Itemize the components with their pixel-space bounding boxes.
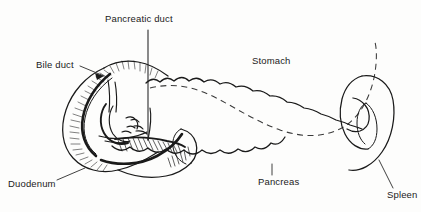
label-spleen: Spleen [387, 190, 417, 200]
label-pancreatic-duct: Pancreatic duct [105, 14, 173, 24]
leader-duodenum [57, 168, 85, 180]
anatomy-figure: Pancreatic duct Bile duct Stomach Duoden… [0, 0, 421, 212]
label-stomach: Stomach [252, 56, 291, 66]
label-pancreas: Pancreas [258, 177, 299, 187]
anatomy-illustration [0, 0, 421, 212]
pancreas-head-shading [115, 137, 185, 153]
duodenum-inner-rim [82, 74, 182, 164]
label-bile-duct: Bile duct [36, 60, 74, 70]
label-duodenum: Duodenum [8, 179, 56, 189]
leader-spleen [379, 160, 393, 188]
